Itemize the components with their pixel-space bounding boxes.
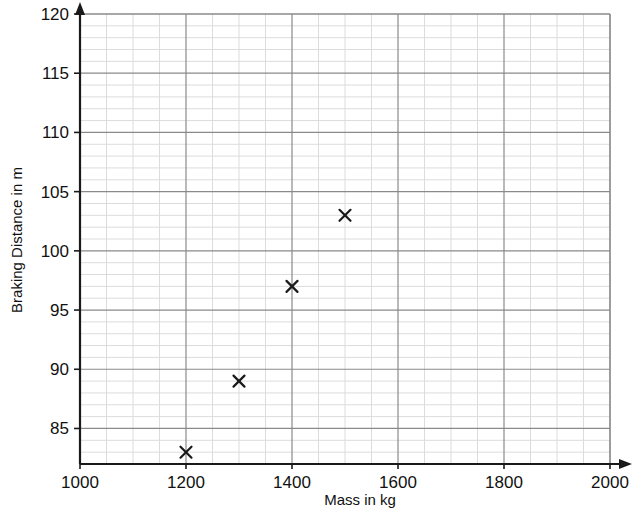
x-tick-label: 1000 xyxy=(61,473,99,492)
chart-canvas: 100012001400160018002000 859095100105110… xyxy=(0,0,640,520)
x-tick-label: 2000 xyxy=(591,473,629,492)
y-tick-label: 85 xyxy=(50,419,69,438)
chart-background xyxy=(0,0,640,520)
y-tick-label: 110 xyxy=(42,123,69,142)
x-tick-label: 1200 xyxy=(167,473,205,492)
minor-gridlines xyxy=(80,14,610,464)
y-tick-label: 115 xyxy=(42,64,69,83)
y-tick-label: 90 xyxy=(50,360,69,379)
scatter-plot-chart: 100012001400160018002000 859095100105110… xyxy=(0,0,640,520)
y-axis-title: Braking Distance in m xyxy=(8,167,25,313)
y-tick-label: 105 xyxy=(41,183,69,202)
y-tick-label: 100 xyxy=(41,242,69,261)
x-tick-label: 1800 xyxy=(485,473,523,492)
y-tick-label: 95 xyxy=(50,301,69,320)
y-tick-label: 120 xyxy=(41,5,69,24)
x-tick-label: 1600 xyxy=(379,473,417,492)
x-axis-title: Mass in kg xyxy=(324,491,396,508)
x-tick-label: 1400 xyxy=(273,473,311,492)
